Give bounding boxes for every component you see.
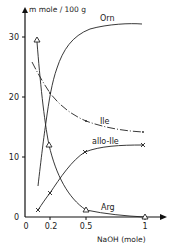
label-ile: Ile: [100, 117, 110, 126]
series-ile: [32, 62, 143, 132]
x-tick-0.5: 0.5: [80, 222, 93, 231]
x-tick-0.2: 0.2: [45, 222, 58, 231]
ile-marker: [49, 92, 51, 94]
allo-ile-markers: [36, 143, 145, 212]
y-tick-0: 0: [14, 213, 19, 222]
y-axis-title: m mole / 100 g: [29, 5, 86, 14]
ile-marker: [142, 131, 144, 133]
y-tick-30: 30: [9, 33, 19, 42]
x-axis-arrow-icon: [160, 214, 167, 220]
label-arg: Arg: [101, 203, 115, 212]
chart: 30 20 10 0 0 0.2 0.5 1 m mole / 100 g Na…: [0, 0, 179, 251]
x-tick-1: 1: [142, 222, 147, 231]
y-axis-arrow-icon: [22, 7, 28, 13]
x-axis-title: NaOH (mole): [97, 235, 146, 244]
label-allo-ile: allo-Ile: [92, 137, 119, 146]
y-tick-10: 10: [9, 153, 19, 162]
series-arg: [37, 42, 145, 217]
y-tick-20: 20: [9, 93, 19, 102]
series-allo-ile: [38, 145, 143, 210]
label-orn: Orn: [100, 14, 115, 23]
ile-marker: [85, 120, 87, 122]
x-tick-0: 0: [23, 222, 28, 231]
